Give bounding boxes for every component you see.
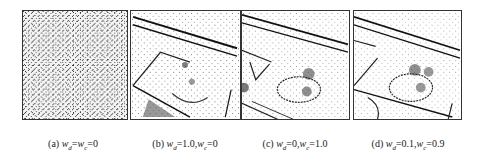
caption-b-label: (b) (152, 138, 164, 149)
edge-map-c (242, 11, 349, 119)
edge-map-d (354, 11, 461, 119)
caption-c-wd: 0 (292, 138, 297, 149)
caption-b: (b) wd=1.0,wc=0 (152, 138, 217, 152)
noise-texture (23, 11, 127, 119)
caption-c-wc: 1.0 (315, 138, 328, 149)
caption-c: (c) wd=0,wc=1.0 (263, 138, 328, 152)
edge-map-b (131, 11, 240, 119)
panel-d-edge-image (353, 10, 462, 120)
caption-b-wd: 1.0 (182, 138, 195, 149)
caption-a-label: (a) (48, 138, 59, 149)
panel-b-edge-image (130, 10, 241, 120)
caption-d: (d) wd=0.1,wc=0.9 (372, 138, 445, 152)
panel-a-noise-image (22, 10, 128, 120)
caption-c-label: (c) (263, 138, 274, 149)
caption-d-wc: 0.9 (432, 138, 445, 149)
caption-d-label: (d) (372, 138, 384, 149)
panel-c-edge-image (241, 10, 350, 120)
caption-a-value: 0 (93, 138, 98, 149)
caption-b-wc: 0 (213, 138, 218, 149)
caption-d-wd: 0.1 (402, 138, 415, 149)
caption-a: (a) wd=wc=0 (48, 138, 98, 152)
